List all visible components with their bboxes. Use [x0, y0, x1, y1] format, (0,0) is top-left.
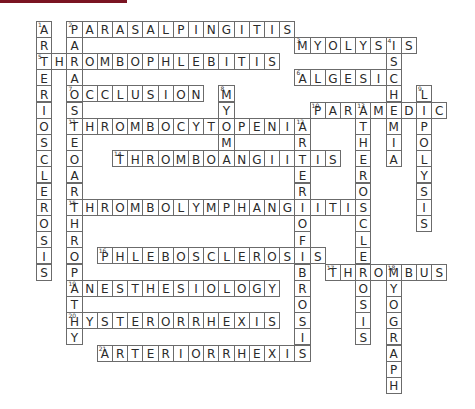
crossword-cell[interactable]: R [142, 312, 158, 329]
crossword-cell[interactable]: Y [188, 199, 204, 216]
crossword-cell[interactable]: Y [355, 37, 371, 54]
crossword-cell[interactable]: M [218, 134, 234, 151]
crossword-cell[interactable]: Y [416, 166, 432, 183]
crossword-cell[interactable]: P [142, 53, 158, 70]
crossword-cell[interactable]: R [355, 166, 371, 183]
crossword-cell[interactable]: R [36, 37, 52, 54]
crossword-cell[interactable]: S [325, 150, 341, 167]
crossword-cell[interactable]: S [355, 328, 371, 345]
crossword-cell[interactable]: S [294, 345, 310, 362]
crossword-cell[interactable]: O [158, 312, 174, 329]
crossword-cell[interactable]: 17T [325, 264, 341, 281]
crossword-cell[interactable]: E [97, 280, 113, 297]
crossword-cell[interactable]: Y [264, 280, 280, 297]
crossword-cell[interactable]: C [173, 118, 189, 135]
crossword-cell[interactable]: 12A [294, 118, 310, 135]
crossword-cell[interactable]: R [66, 231, 82, 248]
crossword-cell[interactable]: N [264, 199, 280, 216]
crossword-cell[interactable]: B [188, 150, 204, 167]
crossword-cell[interactable]: 14T [112, 150, 128, 167]
crossword-cell[interactable]: M [97, 53, 113, 70]
crossword-cell[interactable]: I [370, 69, 386, 86]
crossword-cell[interactable]: O [370, 264, 386, 281]
crossword-cell[interactable]: L [112, 85, 128, 102]
crossword-cell[interactable]: R [112, 345, 128, 362]
crossword-cell[interactable]: I [188, 21, 204, 38]
crossword-cell[interactable]: L [340, 37, 356, 54]
crossword-cell[interactable]: O [218, 118, 234, 135]
crossword-cell[interactable]: 8M [218, 85, 234, 102]
crossword-cell[interactable]: E [218, 312, 234, 329]
crossword-cell[interactable]: I [36, 247, 52, 264]
crossword-cell[interactable]: 3M [294, 37, 310, 54]
crossword-cell[interactable]: L [416, 150, 432, 167]
crossword-cell[interactable]: I [36, 102, 52, 119]
crossword-cell[interactable]: S [279, 21, 295, 38]
crossword-cell[interactable]: P [416, 118, 432, 135]
crossword-cell[interactable]: R [386, 328, 402, 345]
crossword-cell[interactable]: E [66, 134, 82, 151]
crossword-cell[interactable]: I [355, 312, 371, 329]
crossword-cell[interactable]: C [36, 150, 52, 167]
crossword-cell[interactable]: P [173, 21, 189, 38]
crossword-cell[interactable]: M [127, 118, 143, 135]
crossword-cell[interactable]: E [249, 118, 265, 135]
crossword-cell[interactable]: M [203, 199, 219, 216]
crossword-cell[interactable]: S [36, 264, 52, 281]
crossword-cell[interactable]: H [355, 134, 371, 151]
crossword-cell[interactable]: O [355, 183, 371, 200]
crossword-cell[interactable]: L [36, 166, 52, 183]
crossword-cell[interactable]: C [97, 85, 113, 102]
crossword-cell[interactable]: B [401, 264, 417, 281]
crossword-cell[interactable]: 18M [386, 264, 402, 281]
crossword-cell[interactable]: R [340, 102, 356, 119]
crossword-cell[interactable]: A [386, 150, 402, 167]
crossword-cell[interactable]: R [188, 312, 204, 329]
crossword-cell[interactable]: M [386, 118, 402, 135]
crossword-cell[interactable]: I [340, 199, 356, 216]
crossword-cell[interactable]: S [36, 231, 52, 248]
crossword-cell[interactable]: 10P [310, 102, 326, 119]
crossword-cell[interactable]: R [218, 345, 234, 362]
crossword-cell[interactable]: B [203, 53, 219, 70]
crossword-cell[interactable]: O [158, 150, 174, 167]
crossword-cell[interactable]: N [203, 21, 219, 38]
crossword-cell[interactable]: R [173, 312, 189, 329]
crossword-cell[interactable]: E [188, 53, 204, 70]
crossword-cell[interactable]: 5T [36, 53, 52, 70]
crossword-cell[interactable]: E [294, 166, 310, 183]
crossword-cell[interactable]: N [82, 280, 98, 297]
crossword-cell[interactable]: R [294, 183, 310, 200]
crossword-cell[interactable]: I [218, 53, 234, 70]
crossword-cell[interactable]: L [355, 231, 371, 248]
crossword-cell[interactable]: T [203, 118, 219, 135]
crossword-cell[interactable]: H [158, 53, 174, 70]
crossword-cell[interactable]: O [112, 199, 128, 216]
crossword-cell[interactable]: B [142, 118, 158, 135]
crossword-cell[interactable]: R [203, 345, 219, 362]
crossword-cell[interactable]: Y [66, 328, 82, 345]
crossword-cell[interactable]: S [97, 312, 113, 329]
crossword-cell[interactable]: 7O [66, 85, 82, 102]
crossword-cell[interactable]: 16P [97, 247, 113, 264]
crossword-cell[interactable]: O [173, 247, 189, 264]
crossword-cell[interactable]: A [66, 69, 82, 86]
crossword-cell[interactable]: 4I [386, 37, 402, 54]
crossword-cell[interactable]: O [173, 85, 189, 102]
crossword-cell[interactable]: G [325, 69, 341, 86]
crossword-cell[interactable]: O [66, 150, 82, 167]
crossword-cell[interactable]: O [188, 345, 204, 362]
crossword-cell[interactable]: I [249, 53, 265, 70]
crossword-cell[interactable]: I [264, 150, 280, 167]
crossword-cell[interactable]: I [249, 312, 265, 329]
crossword-cell[interactable]: E [142, 345, 158, 362]
crossword-cell[interactable]: S [142, 85, 158, 102]
crossword-cell[interactable]: H [386, 377, 402, 394]
crossword-cell[interactable]: I [279, 150, 295, 167]
crossword-cell[interactable]: 6A [294, 69, 310, 86]
crossword-cell[interactable]: R [158, 345, 174, 362]
crossword-cell[interactable]: R [97, 118, 113, 135]
crossword-cell[interactable]: S [416, 215, 432, 232]
crossword-cell[interactable]: S [386, 53, 402, 70]
crossword-cell[interactable]: O [386, 296, 402, 313]
